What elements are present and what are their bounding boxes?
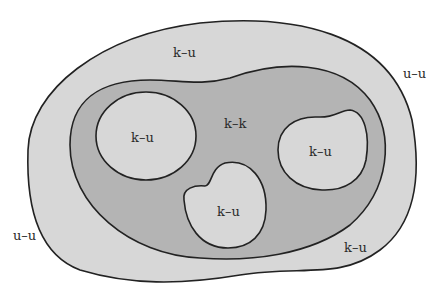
diagram-canvas bbox=[0, 0, 445, 300]
label-outer-left: u–u bbox=[13, 229, 36, 242]
label-blob-bottom: k–u bbox=[217, 205, 240, 218]
label-outer-bottom-right: k–u bbox=[344, 241, 367, 254]
label-outer-top: k–u bbox=[173, 46, 196, 59]
label-outer-right: u–u bbox=[403, 67, 426, 80]
label-middle: k–k bbox=[224, 117, 246, 130]
label-blob-left: k–u bbox=[131, 131, 154, 144]
nested-regions-diagram: k–u u–u u–u k–u k–k k–u k–u k–u bbox=[0, 0, 445, 300]
label-blob-right: k–u bbox=[309, 145, 332, 158]
